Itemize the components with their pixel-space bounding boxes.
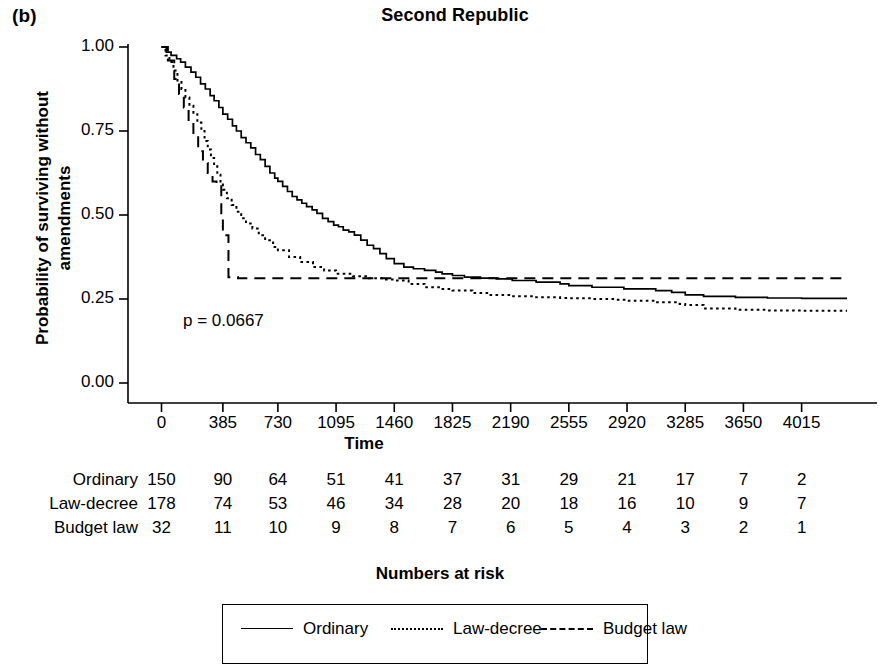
risk-cell: 2: [713, 518, 773, 538]
risk-cell: 21: [597, 470, 657, 490]
legend-row: OrdinaryLaw-decreeBudget law: [223, 615, 649, 643]
risk-cell: 8: [364, 518, 424, 538]
risk-cell: 20: [481, 494, 541, 514]
risk-cell: 4: [597, 518, 657, 538]
risk-cell: 90: [193, 470, 253, 490]
y-tick-label: 1.00: [54, 36, 114, 56]
risk-cell: 7: [772, 494, 832, 514]
risk-cell: 29: [539, 470, 599, 490]
risk-cell: 6: [481, 518, 541, 538]
risk-cell: 9: [306, 518, 366, 538]
legend-line-swatch-dashed-icon: [541, 622, 593, 636]
plot-axes: [119, 44, 877, 412]
legend-item-budget-law[interactable]: Budget law: [541, 615, 687, 643]
risk-row-label: Budget law: [8, 518, 138, 538]
risk-cell: 37: [422, 470, 482, 490]
legend: OrdinaryLaw-decreeBudget law: [222, 604, 648, 664]
risk-cell: 51: [306, 470, 366, 490]
risk-cell: 7: [422, 518, 482, 538]
risk-cell: 2: [772, 470, 832, 490]
risk-cell: 64: [248, 470, 308, 490]
y-tick-label: 0.75: [54, 120, 114, 140]
risk-cell: 10: [655, 494, 715, 514]
risk-cell: 178: [132, 494, 192, 514]
risk-cell: 3: [655, 518, 715, 538]
risk-cell: 18: [539, 494, 599, 514]
risk-cell: 1: [772, 518, 832, 538]
legend-item-label: Ordinary: [303, 619, 368, 639]
legend-line-swatch-solid-icon: [241, 622, 293, 636]
plot-area: [0, 0, 887, 420]
risk-row-label: Ordinary: [8, 470, 138, 490]
survival-curves: [162, 47, 848, 311]
x-axis-label: Time: [284, 434, 444, 454]
risk-cell: 46: [306, 494, 366, 514]
y-tick-label: 0.00: [54, 372, 114, 392]
risk-cell: 32: [132, 518, 192, 538]
y-tick-label: 0.25: [54, 288, 114, 308]
risk-cell: 74: [193, 494, 253, 514]
legend-line-swatch-dotted-icon: [391, 622, 443, 636]
risk-row-label: Law-decree: [8, 494, 138, 514]
curve-law-decree: [162, 47, 848, 311]
legend-item-label: Law-decree: [453, 619, 542, 639]
risk-cell: 41: [364, 470, 424, 490]
risk-cell: 9: [713, 494, 773, 514]
risk-cell: 150: [132, 470, 192, 490]
x-tick-label: 0: [127, 413, 197, 433]
risk-cell: 28: [422, 494, 482, 514]
risk-cell: 5: [539, 518, 599, 538]
risk-cell: 34: [364, 494, 424, 514]
p-value-annotation: p = 0.0667: [183, 311, 264, 331]
risk-cell: 11: [193, 518, 253, 538]
legend-item-label: Budget law: [603, 619, 687, 639]
y-tick-label: 0.50: [54, 204, 114, 224]
risk-cell: 53: [248, 494, 308, 514]
risk-cell: 17: [655, 470, 715, 490]
curve-ordinary: [162, 47, 848, 298]
numbers-at-risk-caption: Numbers at risk: [290, 564, 590, 584]
risk-cell: 10: [248, 518, 308, 538]
legend-item-law-decree[interactable]: Law-decree: [391, 615, 542, 643]
risk-cell: 7: [713, 470, 773, 490]
x-tick-label: 4015: [767, 413, 837, 433]
legend-item-ordinary[interactable]: Ordinary: [241, 615, 368, 643]
risk-cell: 16: [597, 494, 657, 514]
risk-cell: 31: [481, 470, 541, 490]
